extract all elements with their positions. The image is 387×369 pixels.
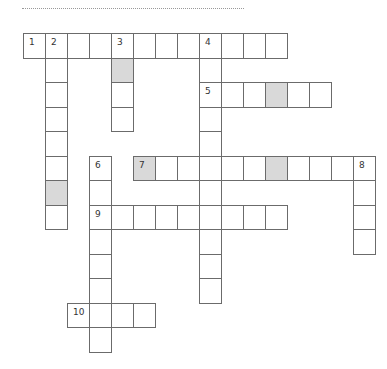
grid-cell[interactable] (89, 254, 112, 280)
grid-cell[interactable] (45, 131, 68, 157)
grid-cell[interactable] (45, 58, 68, 84)
grid-cell[interactable]: 4 (199, 33, 222, 59)
grid-cell[interactable] (177, 33, 200, 59)
clue-number: 8 (359, 161, 365, 170)
clue-number: 6 (95, 161, 101, 170)
grid-cell[interactable] (111, 58, 134, 84)
grid-cell[interactable] (287, 82, 310, 108)
grid-cell[interactable] (45, 180, 68, 206)
grid-cell[interactable] (89, 327, 112, 353)
grid-cell[interactable] (111, 82, 134, 108)
grid-cell[interactable]: 1 (23, 33, 46, 59)
grid-cell[interactable]: 8 (353, 156, 376, 182)
grid-cell[interactable] (287, 156, 310, 182)
grid-cell[interactable] (243, 205, 266, 231)
grid-cell[interactable] (199, 205, 222, 231)
grid-cell[interactable] (89, 180, 112, 206)
grid-cell[interactable] (111, 107, 134, 133)
grid-cell[interactable] (133, 205, 156, 231)
grid-cell[interactable]: 9 (89, 205, 112, 231)
grid-cell[interactable] (199, 58, 222, 84)
grid-cell[interactable] (353, 205, 376, 231)
grid-cell[interactable] (45, 107, 68, 133)
grid-cell[interactable] (199, 229, 222, 255)
grid-cell[interactable] (177, 205, 200, 231)
grid-cell[interactable]: 2 (45, 33, 68, 59)
grid-cell[interactable] (133, 33, 156, 59)
grid-cell[interactable] (199, 180, 222, 206)
grid-cell[interactable] (111, 205, 134, 231)
grid-cell[interactable] (265, 33, 288, 59)
grid-cell[interactable]: 6 (89, 156, 112, 182)
grid-cell[interactable] (155, 205, 178, 231)
grid-cell[interactable] (353, 229, 376, 255)
clue-number: 5 (205, 87, 211, 96)
grid-cell[interactable]: 10 (67, 303, 90, 329)
grid-cell[interactable] (221, 205, 244, 231)
grid-cell[interactable] (45, 205, 68, 231)
grid-cell[interactable] (221, 33, 244, 59)
grid-cell[interactable] (155, 33, 178, 59)
grid-cell[interactable]: 7 (133, 156, 156, 182)
grid-cell[interactable] (111, 303, 134, 329)
grid-cell[interactable] (309, 156, 332, 182)
clue-number: 9 (95, 210, 101, 219)
grid-cell[interactable] (243, 82, 266, 108)
clue-number: 10 (73, 308, 84, 317)
grid-cell[interactable] (177, 156, 200, 182)
grid-cell[interactable] (45, 156, 68, 182)
grid-cell[interactable] (243, 33, 266, 59)
grid-cell[interactable]: 3 (111, 33, 134, 59)
grid-cell[interactable] (199, 156, 222, 182)
grid-cell[interactable]: 5 (199, 82, 222, 108)
grid-cell[interactable] (265, 156, 288, 182)
grid-cell[interactable] (221, 82, 244, 108)
clue-number: 4 (205, 38, 211, 47)
grid-cell[interactable] (199, 107, 222, 133)
grid-cell[interactable] (265, 82, 288, 108)
grid-cell[interactable] (67, 33, 90, 59)
clue-number: 3 (117, 38, 123, 47)
name-line (22, 8, 244, 9)
grid-cell[interactable] (353, 180, 376, 206)
grid-cell[interactable] (309, 82, 332, 108)
grid-cell[interactable] (265, 205, 288, 231)
grid-cell[interactable] (89, 303, 112, 329)
grid-cell[interactable] (331, 156, 354, 182)
grid-cell[interactable] (199, 131, 222, 157)
grid-cell[interactable] (221, 156, 244, 182)
grid-cell[interactable] (133, 303, 156, 329)
grid-cell[interactable] (45, 82, 68, 108)
grid-cell[interactable] (199, 278, 222, 304)
grid-cell[interactable] (199, 254, 222, 280)
grid-cell[interactable] (89, 229, 112, 255)
grid-cell[interactable] (243, 156, 266, 182)
clue-number: 7 (139, 161, 145, 170)
clue-number: 2 (51, 38, 57, 47)
clue-number: 1 (29, 38, 35, 47)
grid-cell[interactable] (89, 278, 112, 304)
grid-cell[interactable] (89, 33, 112, 59)
grid-cell[interactable] (155, 156, 178, 182)
